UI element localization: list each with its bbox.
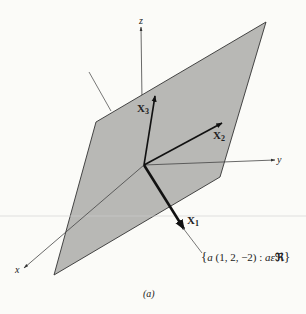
annotation-leader-line (183, 228, 202, 253)
figure-caption: (a) (143, 288, 155, 300)
diagram-svg: z y x X3 X2 X1 {a (1, 2, −2) : aεℜ} (a) (0, 0, 306, 314)
plane (54, 22, 266, 275)
normal-line-behind (89, 72, 111, 111)
z-axis-label: z (138, 15, 143, 26)
figure-canvas: z y x X3 X2 X1 {a (1, 2, −2) : aεℜ} (a) (0, 0, 306, 314)
y-axis-label: y (276, 154, 282, 165)
line-set-annotation: {a (1, 2, −2) : aεℜ} (201, 249, 290, 264)
x-axis-label: x (14, 264, 20, 275)
z-axis-upper (141, 27, 142, 100)
